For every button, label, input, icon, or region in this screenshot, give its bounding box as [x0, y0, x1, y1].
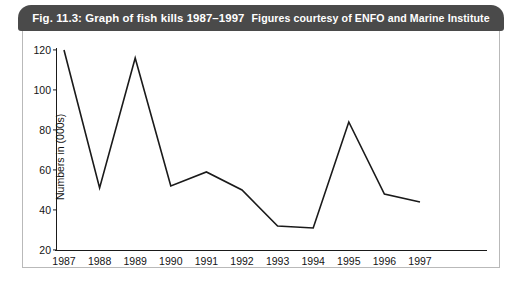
y-tick-label: 60: [39, 164, 51, 176]
plot-area: Numbers in (000s) 20406080100120 1987198…: [56, 50, 456, 250]
y-tick-label: 100: [33, 84, 51, 96]
x-tick-label: 1990: [159, 255, 182, 267]
x-tick-label: 1992: [230, 255, 253, 267]
x-tick-label: 1993: [266, 255, 289, 267]
caption-credit: Figures courtesy of ENFO and Marine Inst…: [252, 12, 490, 24]
x-tick-label: 1987: [52, 255, 75, 267]
line-series-fish-kills: [56, 50, 456, 250]
x-tick-label: 1991: [195, 255, 218, 267]
x-tick-label: 1989: [124, 255, 147, 267]
y-tick-label: 40: [39, 204, 51, 216]
x-tick-label: 1997: [408, 255, 431, 267]
caption-title: Fig. 11.3: Graph of fish kills 1987–1997: [32, 12, 244, 24]
x-tick-label: 1996: [373, 255, 396, 267]
x-tick-label: 1995: [337, 255, 360, 267]
x-axis-line: [55, 250, 487, 251]
y-tick-label: 20: [39, 244, 51, 256]
figure-container: Fig. 11.3: Graph of fish kills 1987–1997…: [0, 0, 522, 281]
x-tick-label: 1994: [302, 255, 325, 267]
series-polyline: [64, 50, 420, 228]
x-tick-label: 1988: [88, 255, 111, 267]
figure-caption-text: Fig. 11.3: Graph of fish kills 1987–1997…: [32, 12, 489, 24]
y-tick-label: 120: [33, 44, 51, 56]
y-tick-label: 80: [39, 124, 51, 136]
figure-caption-bar: Fig. 11.3: Graph of fish kills 1987–1997…: [18, 5, 504, 31]
